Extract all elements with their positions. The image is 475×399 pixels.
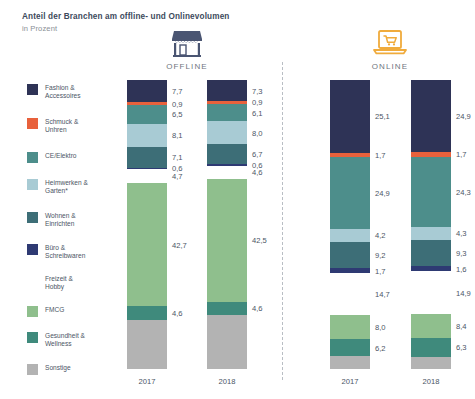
legend-item[interactable]: Fashion &Accessoires bbox=[27, 84, 119, 101]
legend-item[interactable]: Büro &Schreibwaren bbox=[27, 244, 119, 261]
storefront-icon bbox=[127, 26, 247, 60]
legend-label: Büro &Schreibwaren bbox=[45, 244, 119, 261]
bar-segment[interactable] bbox=[127, 320, 167, 369]
bar-segment[interactable]: 6,2 bbox=[330, 339, 370, 357]
legend-label: Wohnen &Einrichten bbox=[45, 212, 119, 229]
bar-segment[interactable]: 8,1 bbox=[127, 124, 167, 147]
bar-segment-value: 1,7 bbox=[375, 266, 386, 275]
legend-item[interactable]: Heimwerken &Garten* bbox=[27, 179, 119, 196]
bar-segment-value: 6,5 bbox=[172, 110, 183, 119]
bar-segment[interactable]: 4,6 bbox=[127, 306, 167, 319]
panel-header-online: ONLINE bbox=[330, 26, 450, 71]
stacked-bar[interactable]: 7,70,96,58,17,10,64,742,74,6 bbox=[127, 80, 167, 369]
legend-swatch-icon bbox=[27, 179, 38, 190]
bar-segment-value: 42,5 bbox=[252, 236, 267, 245]
bar-segment[interactable]: 4,6 bbox=[207, 166, 247, 179]
bar-segment[interactable]: 4,6 bbox=[207, 302, 247, 315]
bar-year-label: 2018 bbox=[411, 377, 451, 386]
bar-segment-value: 6,2 bbox=[375, 343, 386, 352]
bar-segment[interactable]: 6,1 bbox=[207, 104, 247, 122]
panel-label-online: ONLINE bbox=[330, 62, 450, 71]
bar-segment-value: 7,7 bbox=[172, 87, 183, 96]
panel-header-offline: OFFLINE bbox=[127, 26, 247, 71]
bar-year-label: 2017 bbox=[330, 377, 370, 386]
bar-segment[interactable]: 4,2 bbox=[330, 229, 370, 241]
bar-year-label: 2018 bbox=[207, 377, 247, 386]
bar-segment[interactable]: 4,7 bbox=[127, 169, 167, 183]
bar-segment[interactable]: 7,3 bbox=[207, 80, 247, 101]
legend-label: Gesundheit &Wellness bbox=[45, 332, 119, 349]
bar-segment-value: 25,1 bbox=[375, 112, 390, 121]
bar-segment[interactable]: 4,3 bbox=[411, 227, 451, 239]
panel-divider bbox=[282, 62, 283, 380]
bar-segment-value: 8,0 bbox=[252, 128, 263, 137]
legend-item[interactable]: Gesundheit &Wellness bbox=[27, 332, 119, 349]
laptop-cart-icon bbox=[330, 26, 450, 60]
bar-segment[interactable]: 6,3 bbox=[411, 338, 451, 356]
bar-segment[interactable]: 25,1 bbox=[330, 80, 370, 153]
chart-page: Anteil der Branchen am offline- und Onli… bbox=[0, 0, 475, 399]
bar-segment[interactable]: 14,9 bbox=[411, 271, 451, 314]
bar-segment[interactable]: 6,7 bbox=[207, 144, 247, 163]
bar-segment[interactable]: 8,0 bbox=[207, 121, 247, 144]
bar-segment-value: 1,6 bbox=[456, 264, 467, 273]
stacked-bar[interactable]: 24,91,724,34,39,31,614,98,46,3 bbox=[411, 80, 451, 369]
bar-segment-value: 0,9 bbox=[172, 99, 183, 108]
stacked-bar[interactable]: 25,11,724,94,29,21,714,78,06,2 bbox=[330, 80, 370, 369]
legend-label: FMCG bbox=[45, 306, 119, 314]
page-subtitle: in Prozent bbox=[22, 24, 57, 33]
legend-label: Heimwerken &Garten* bbox=[45, 179, 119, 196]
bar-segment-value: 1,7 bbox=[456, 150, 467, 159]
bar-segment[interactable]: 14,7 bbox=[330, 273, 370, 315]
legend-item[interactable]: Freizeit &Hobby bbox=[27, 275, 119, 292]
bar-segment-value: 6,7 bbox=[252, 150, 263, 159]
bar-segment-value: 4,6 bbox=[172, 308, 183, 317]
bar-segment[interactable]: 8,4 bbox=[411, 314, 451, 338]
legend-label: CE/Elektro bbox=[45, 152, 119, 160]
legend-item[interactable]: CE/Elektro bbox=[27, 152, 119, 163]
bar-segment[interactable]: 42,7 bbox=[127, 183, 167, 306]
bar-segment[interactable]: 24,3 bbox=[411, 157, 451, 227]
bar-segment-value: 0,9 bbox=[252, 98, 263, 107]
bar-segment[interactable] bbox=[207, 315, 247, 369]
bar-segment[interactable]: 24,9 bbox=[411, 80, 451, 152]
bar-segment[interactable]: 9,3 bbox=[411, 240, 451, 267]
legend-swatch-icon bbox=[27, 244, 38, 255]
bar-segment-value: 7,3 bbox=[252, 86, 263, 95]
bar-segment-value: 8,4 bbox=[456, 322, 467, 331]
legend-swatch-icon bbox=[27, 212, 38, 223]
bar-segment[interactable]: 24,9 bbox=[330, 157, 370, 229]
bar-segment[interactable]: 42,5 bbox=[207, 179, 247, 302]
legend-swatch-icon bbox=[27, 152, 38, 163]
bar-segment[interactable]: 9,2 bbox=[330, 242, 370, 269]
page-title: Anteil der Branchen am offline- und Onli… bbox=[22, 12, 230, 21]
bar-segment-value: 9,2 bbox=[375, 250, 386, 259]
bar-segment-value: 1,7 bbox=[375, 150, 386, 159]
legend-item[interactable]: Wohnen &Einrichten bbox=[27, 212, 119, 229]
bar-segment-value: 4,2 bbox=[375, 231, 386, 240]
bar-segment-value: 8,0 bbox=[375, 323, 386, 332]
legend-item[interactable]: Schmuck &Unhren bbox=[27, 118, 119, 135]
bar-segment-value: 8,1 bbox=[172, 131, 183, 140]
stacked-bar[interactable]: 7,30,96,18,06,70,64,642,54,6 bbox=[207, 80, 247, 369]
bar-segment[interactable] bbox=[330, 356, 370, 368]
bar-segment-value: 4,3 bbox=[456, 229, 467, 238]
bar-segment[interactable]: 8,0 bbox=[330, 315, 370, 338]
legend-item[interactable]: Sonstige bbox=[27, 364, 119, 375]
bar-segment[interactable]: 7,7 bbox=[127, 80, 167, 102]
bar-segment-value: 6,3 bbox=[456, 343, 467, 352]
bar-segment-value: 9,3 bbox=[456, 248, 467, 257]
bar-segment-value: 4,6 bbox=[252, 168, 263, 177]
bar-segment-value: 24,3 bbox=[456, 187, 471, 196]
panel-label-offline: OFFLINE bbox=[127, 62, 247, 71]
legend-swatch-icon bbox=[27, 118, 38, 129]
bar-segment[interactable]: 6,5 bbox=[127, 105, 167, 124]
bar-segment[interactable] bbox=[411, 357, 451, 369]
legend-item[interactable]: FMCG bbox=[27, 306, 119, 317]
bar-segment-value: 42,7 bbox=[172, 240, 187, 249]
bar-segment-value: 4,7 bbox=[172, 172, 183, 181]
legend-label: Schmuck &Unhren bbox=[45, 118, 119, 135]
legend-swatch-icon bbox=[27, 332, 38, 343]
bar-segment[interactable]: 7,1 bbox=[127, 147, 167, 168]
bar-segment-value: 7,1 bbox=[172, 153, 183, 162]
